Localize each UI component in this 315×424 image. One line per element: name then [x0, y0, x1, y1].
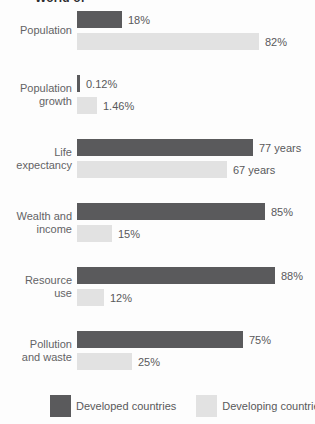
chart-row: Populationgrowth 0.12% 1.46% — [0, 75, 315, 114]
bar-developed — [77, 331, 243, 348]
category-label-line: Resource — [0, 274, 72, 287]
bar-developing — [77, 289, 104, 306]
bar-line-developed: 18% — [77, 11, 315, 28]
category-label: Population — [0, 24, 72, 37]
bar-developing — [77, 97, 97, 114]
value-label-developed: 75% — [249, 334, 271, 346]
bar-developed — [77, 75, 80, 92]
bar-developed — [77, 11, 122, 28]
bar-line-developing: 67 years — [77, 161, 315, 178]
bar-group: 0.12% 1.46% — [77, 75, 315, 114]
category-label-line: Life — [0, 146, 72, 159]
bar-group: 77 years 67 years — [77, 139, 315, 178]
value-label-developed: 18% — [128, 14, 150, 26]
bar-line-developing: 1.46% — [77, 97, 315, 114]
bar-line-developed: 0.12% — [77, 75, 315, 92]
category-label: Populationgrowth — [0, 82, 72, 108]
legend-label-developed: Developed countries — [76, 400, 176, 412]
category-label: Pollutionand waste — [0, 338, 72, 364]
legend-swatch-developing — [196, 395, 217, 417]
bar-developing — [77, 353, 132, 370]
chart-row: Wealth andincome 85% 15% — [0, 203, 315, 242]
value-label-developed: 0.12% — [86, 78, 117, 90]
bar-developing — [77, 161, 227, 178]
chart-row: Resourceuse 88% 12% — [0, 267, 315, 306]
category-label-line: and waste — [0, 351, 72, 364]
category-label: Resourceuse — [0, 274, 72, 300]
chart-title-text: World of — [35, 0, 85, 5]
legend: Developed countries Developing countries — [50, 395, 315, 417]
legend-item-developed: Developed countries — [50, 395, 176, 417]
category-label-line: income — [0, 223, 72, 236]
bar-line-developing: 15% — [77, 225, 315, 242]
legend-label-developing: Developing countries — [222, 400, 315, 412]
value-label-developing: 15% — [118, 228, 140, 240]
bar-line-developed: 77 years — [77, 139, 315, 156]
bar-group: 18% 82% — [77, 11, 315, 50]
category-label-line: use — [0, 287, 72, 300]
category-label-line: expectancy — [0, 159, 72, 172]
bar-line-developed: 88% — [77, 267, 315, 284]
bar-line-developing: 25% — [77, 353, 315, 370]
bar-developed — [77, 267, 275, 284]
value-label-developed: 88% — [281, 270, 303, 282]
category-label-line: growth — [0, 95, 72, 108]
value-label-developing: 25% — [138, 356, 160, 368]
value-label-developing: 12% — [110, 292, 132, 304]
value-label-developed: 77 years — [259, 142, 301, 154]
bar-developing — [77, 225, 112, 242]
chart-title-fragment: World of — [35, 0, 85, 5]
bar-line-developing: 82% — [77, 33, 315, 50]
bar-developing — [77, 33, 259, 50]
category-label-line: Population — [0, 82, 72, 95]
value-label-developing: 1.46% — [103, 100, 134, 112]
value-label-developed: 85% — [271, 206, 293, 218]
bar-group: 88% 12% — [77, 267, 315, 306]
category-label-line: Population — [0, 24, 72, 37]
bar-developed — [77, 203, 265, 220]
value-label-developing: 82% — [265, 36, 287, 48]
bar-line-developed: 75% — [77, 331, 315, 348]
category-label-line: Wealth and — [0, 210, 72, 223]
category-label: Wealth andincome — [0, 210, 72, 236]
bar-line-developing: 12% — [77, 289, 315, 306]
chart-rows: Population 18% 82% Populationgrowth 0.12… — [0, 11, 315, 395]
bar-group: 75% 25% — [77, 331, 315, 370]
chart-row: Lifeexpectancy 77 years 67 years — [0, 139, 315, 178]
category-label: Lifeexpectancy — [0, 146, 72, 172]
category-label-line: Pollution — [0, 338, 72, 351]
value-label-developing: 67 years — [233, 164, 275, 176]
chart-row: Pollutionand waste 75% 25% — [0, 331, 315, 370]
bar-line-developed: 85% — [77, 203, 315, 220]
bar-chart: World of Population 18% 82% Populationgr… — [0, 0, 315, 424]
legend-swatch-developed — [50, 395, 71, 417]
chart-row: Population 18% 82% — [0, 11, 315, 50]
legend-item-developing: Developing countries — [196, 395, 315, 417]
bar-group: 85% 15% — [77, 203, 315, 242]
bar-developed — [77, 139, 253, 156]
